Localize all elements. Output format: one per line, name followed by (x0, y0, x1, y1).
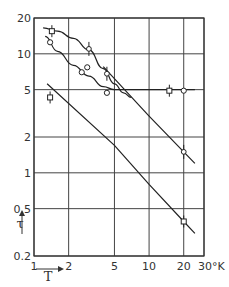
circle-marker (85, 65, 90, 70)
y-tick-label: 20 (17, 12, 31, 25)
x-axis-arrowhead (58, 266, 64, 272)
x-tick-label: 2 (65, 260, 72, 273)
y-tick-label: 1 (24, 167, 31, 180)
square-marker (48, 95, 53, 100)
square-marker (181, 219, 186, 224)
x-tick-label: 10 (142, 260, 156, 273)
x-tick-label: 20 (177, 260, 191, 273)
y-axis-label: τ (16, 216, 23, 231)
x-tick-label: 5 (111, 260, 118, 273)
curve-line (45, 36, 195, 89)
square-marker (167, 88, 172, 93)
curve-line (43, 28, 131, 97)
circle-bar-marker (105, 71, 110, 76)
x-tick-label: 30°K (198, 260, 225, 273)
curve-line (47, 84, 195, 234)
circle-marker (104, 90, 109, 95)
x-tick-label: 1 (31, 260, 38, 273)
square-marker (49, 29, 54, 34)
y-tick-label: 5 (24, 84, 31, 97)
x-axis-label: T (44, 269, 53, 284)
circle-marker (47, 40, 52, 45)
tau-vs-temperature-chart: 0.20.51251020125102030°KτT (0, 0, 229, 287)
circle-marker (79, 70, 84, 75)
y-tick-label: 2 (24, 131, 31, 144)
y-tick-label: 0.2 (14, 250, 32, 263)
circle-marker (181, 88, 186, 93)
circle-bar-marker (87, 46, 92, 51)
y-tick-label: 10 (17, 48, 31, 61)
circle-bar-marker (181, 149, 186, 154)
